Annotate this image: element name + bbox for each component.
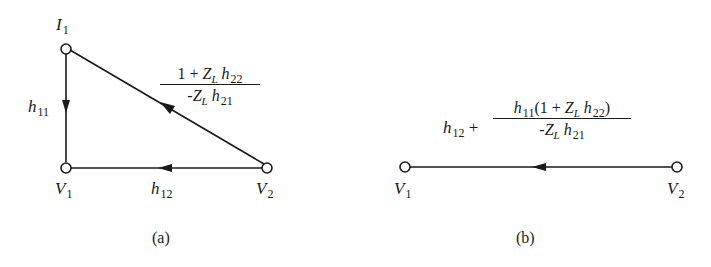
- caption-a: (a): [152, 230, 170, 246]
- node-b-V2-label: V2: [667, 180, 684, 197]
- gain-numerator: 1 + ZL h22: [160, 66, 260, 85]
- branch-h11-label: h11: [28, 98, 49, 115]
- caption-b: (b): [516, 230, 535, 246]
- gain-numerator: h11(1 + ZL h22): [493, 100, 631, 119]
- node-I1-circle: [61, 44, 71, 54]
- branch-h12-label: h12: [151, 180, 173, 197]
- node-V2-circle: [262, 163, 272, 173]
- gain-denominator: -ZL h21: [160, 85, 260, 104]
- node-V1-circle: [61, 163, 71, 173]
- node-V1-label: V1: [55, 180, 72, 197]
- arrow-left-icon: [532, 163, 546, 171]
- node-b-V1-circle: [400, 162, 410, 172]
- node-V2-label: V2: [256, 180, 273, 197]
- node-I1-label: I1: [56, 16, 69, 33]
- node-b-V1-label: V1: [394, 180, 411, 197]
- arrow-down-icon: [62, 100, 70, 113]
- arrow-left-icon: [158, 164, 172, 172]
- branch-b-lead-term: h12 +: [443, 119, 478, 136]
- node-b-V2-circle: [672, 162, 682, 172]
- branch-diag-gain: 1 + ZL h22 -ZL h21: [160, 66, 260, 104]
- gain-denominator: -ZL h21: [493, 119, 631, 138]
- branch-b-gain-fraction: h11(1 + ZL h22) -ZL h21: [493, 100, 631, 138]
